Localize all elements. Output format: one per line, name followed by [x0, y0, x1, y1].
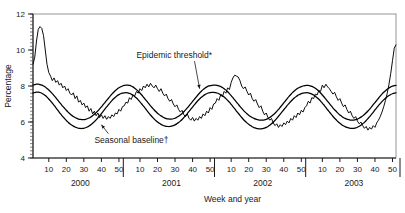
- x-tick-label: 30: [79, 165, 88, 174]
- y-axis-tick-labels: 4681012: [16, 10, 25, 163]
- series-smooth: [33, 92, 396, 129]
- annotation-layer: Epidemic threshold*Seasonal baseline†: [94, 50, 212, 145]
- chart-canvas: 4681012 10203040501020304050102030405010…: [0, 0, 405, 213]
- x-axis-ticks: [49, 158, 393, 162]
- x-tick-label: 40: [279, 165, 288, 174]
- x-year-label: 2002: [253, 178, 272, 188]
- x-tick-label: 50: [297, 165, 306, 174]
- y-tick-label: 6: [21, 118, 26, 127]
- y-tick-label: 8: [21, 82, 26, 91]
- x-tick-label: 20: [153, 165, 162, 174]
- epidemic-threshold-annotation-arrowhead: [197, 85, 200, 89]
- x-tick-label: 10: [318, 165, 327, 174]
- y-axis-title: Percentage: [3, 64, 13, 108]
- x-year-label: 2001: [162, 178, 181, 188]
- x-tick-label: 20: [244, 165, 253, 174]
- x-tick-label: 30: [262, 165, 271, 174]
- x-tick-label: 50: [114, 165, 123, 174]
- x-axis-title: Week and year: [204, 194, 261, 204]
- plot-frame: [33, 14, 396, 158]
- x-tick-label: 50: [206, 165, 215, 174]
- x-tick-label: 10: [136, 165, 145, 174]
- y-tick-label: 4: [21, 154, 26, 163]
- x-tick-label: 40: [97, 165, 106, 174]
- x-axis-tick-labels: 1020304050102030405010203040501020304050: [44, 165, 397, 174]
- x-year-label: 2003: [344, 178, 363, 188]
- epidemic-threshold-annotation-text: Epidemic threshold*: [136, 50, 212, 60]
- x-tick-label: 30: [171, 165, 180, 174]
- x-tick-label: 50: [388, 165, 397, 174]
- x-tick-label: 40: [188, 165, 197, 174]
- plot-area-border: [33, 14, 396, 158]
- x-tick-label: 30: [353, 165, 362, 174]
- x-year-label: 2000: [71, 178, 90, 188]
- data-series-layer: [33, 27, 396, 131]
- x-tick-label: 40: [371, 165, 380, 174]
- x-tick-label: 20: [62, 165, 71, 174]
- figure-container: 4681012 10203040501020304050102030405010…: [0, 0, 405, 213]
- x-axis-year-labels: 2000200120022003: [71, 178, 364, 188]
- seasonal-baseline-annotation-text: Seasonal baseline†: [94, 135, 168, 145]
- series-jagged-weekly: [33, 27, 396, 131]
- x-tick-label: 20: [335, 165, 344, 174]
- y-tick-label: 10: [16, 46, 25, 55]
- x-tick-label: 10: [227, 165, 236, 174]
- epidemic-threshold-annotation-leader: [195, 61, 200, 89]
- x-tick-label: 10: [44, 165, 53, 174]
- y-tick-label: 12: [16, 10, 25, 19]
